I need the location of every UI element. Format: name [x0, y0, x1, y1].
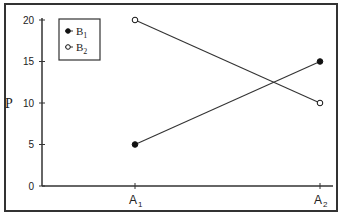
- y-tick-label: 0: [28, 181, 34, 192]
- legend-marker: [66, 45, 71, 50]
- data-point: [317, 100, 323, 106]
- x-tick-label: A2: [314, 193, 328, 209]
- series-line-b1: [135, 62, 320, 145]
- marks: [132, 17, 323, 147]
- axes: 05101520PA1A2: [5, 15, 333, 210]
- legend-marker: [66, 29, 71, 34]
- y-tick-label: 10: [23, 98, 35, 109]
- series-line-b2: [135, 20, 320, 103]
- data-point: [132, 142, 138, 148]
- y-axis-title: P: [5, 96, 13, 111]
- y-tick-label: 20: [23, 15, 35, 26]
- y-tick-label: 5: [28, 139, 34, 150]
- data-point: [317, 59, 323, 65]
- y-tick-label: 15: [23, 56, 35, 67]
- data-point: [132, 17, 138, 23]
- legend: B1B2: [59, 19, 100, 60]
- x-tick-label: A1: [129, 193, 143, 209]
- line-chart: 05101520PA1A2 B1B2: [0, 0, 341, 214]
